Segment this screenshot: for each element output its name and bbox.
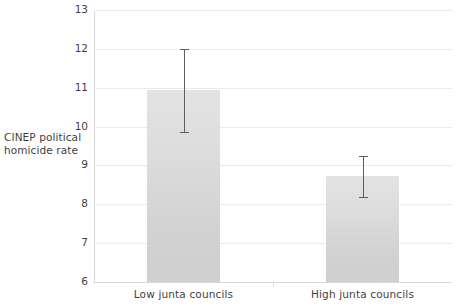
y-axis-tick-label: 8 [60, 198, 88, 209]
error-bar-cap-lower [180, 132, 189, 133]
gridline [94, 10, 452, 11]
y-axis-title-line-2: homicide rate [4, 144, 88, 157]
y-axis-tick-label: 6 [60, 276, 88, 287]
error-bar-cap-upper [359, 156, 368, 157]
error-bar-cap-lower [359, 197, 368, 198]
x-axis-tick-label: Low junta councils [94, 288, 273, 300]
error-bar-cap-upper [180, 49, 189, 50]
gridline [94, 88, 452, 89]
y-axis-tick-label: 7 [60, 237, 88, 248]
gridline [94, 49, 452, 50]
x-axis-tick-label: High junta councils [273, 288, 452, 300]
error-bar [363, 156, 364, 197]
y-axis-tick-label: 10 [60, 121, 88, 132]
x-axis-tick-mark [273, 282, 274, 287]
y-axis-tick-label: 12 [60, 43, 88, 54]
y-axis-title-line-1: CINEP political [4, 131, 88, 144]
y-axis-tick-label: 11 [60, 82, 88, 93]
y-axis-tick-label: 13 [60, 4, 88, 15]
y-axis-title: CINEP political homicide rate [4, 131, 88, 157]
y-axis-tick-label: 9 [60, 159, 88, 170]
y-axis-line [94, 10, 95, 282]
error-bar [184, 49, 185, 132]
bar-chart: CINEP political homicide rate 1312111098… [0, 0, 456, 307]
